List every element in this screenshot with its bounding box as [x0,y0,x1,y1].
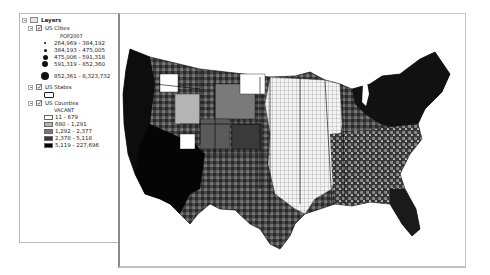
point-symbol-icon [44,49,47,52]
collapse-icon[interactable] [28,101,33,106]
point-symbol-icon [42,61,48,67]
collapse-icon[interactable] [22,18,27,23]
point-symbol-icon [41,72,49,80]
layer-us-counties[interactable]: ✓ US Counties [28,100,78,106]
layer-us-states[interactable]: ✓ US States [28,84,72,90]
layer-name: US States [45,84,72,90]
point-symbol-icon [43,55,48,60]
toc-root-layers[interactable]: Layers [22,17,61,23]
legend-class: 384,193 - 475,005 [38,47,105,53]
legend-field-name: POP2007 [60,33,83,39]
color-swatch-icon [44,122,53,127]
layer-name: US Cities [45,25,70,31]
legend-class: 680 - 1,291 [44,121,87,127]
legend-class: 11 - 679 [44,114,78,120]
layer-us-cities[interactable]: ✓ US Cities [28,25,70,31]
legend-polygon-symbol [44,92,54,98]
us-counties-map[interactable] [120,14,465,266]
color-swatch-icon [44,136,53,141]
map-view[interactable] [118,13,466,268]
legend-class: 852,361 - 8,323,732 [38,72,110,80]
visibility-checkbox[interactable]: ✓ [36,25,42,31]
legend-class: 475,006 - 591,318 [38,54,105,60]
legend-class: 5,119 - 227,696 [44,142,99,148]
color-swatch-icon [44,143,53,148]
collapse-icon[interactable] [28,85,33,90]
legend-class: 264,969 - 384,192 [38,40,105,46]
visibility-checkbox[interactable]: ✓ [36,84,42,90]
collapse-icon[interactable] [28,26,33,31]
visibility-checkbox[interactable]: ✓ [36,100,42,106]
layer-name: US Counties [45,100,78,106]
color-swatch-icon [44,115,53,120]
layers-icon [30,17,38,23]
color-swatch-icon [44,129,53,134]
toc-root-label: Layers [41,17,61,23]
polygon-outline-icon [44,92,54,98]
table-of-contents-panel: Layers ✓ US Cities POP2007 264,969 - 384… [19,13,121,243]
point-symbol-icon [44,42,46,44]
legend-class: 2,378 - 5,118 [44,135,92,141]
legend-class: 591,319 - 852,360 [38,61,105,67]
legend-field-name: VACANT [54,107,74,113]
legend-class: 1,292 - 2,377 [44,128,92,134]
